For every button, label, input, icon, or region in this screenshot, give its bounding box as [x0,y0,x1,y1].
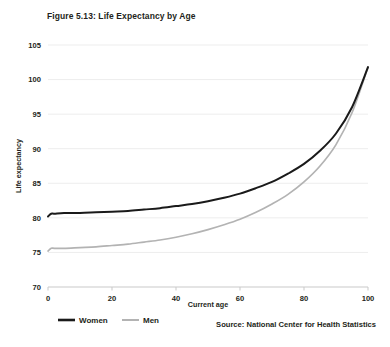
y-axis-tick-labels: 707580859095100105 [28,41,41,292]
legend-label-women: Women [79,316,108,325]
y-axis-tick-label: 90 [33,145,41,154]
figure-container: Figure 5.13: Life Expectancy by Age 7075… [0,0,390,347]
y-axis-tick-label: 85 [33,179,42,188]
y-axis-tick-label: 75 [33,248,42,257]
life-expectancy-line-chart: 707580859095100105 020406080100 Life exp… [0,0,390,347]
y-axis-title: Life expectancy [14,139,23,193]
y-axis-tick-label: 95 [33,110,42,119]
legend-label-men: Men [143,316,159,325]
y-axis-tick-label: 100 [28,75,41,84]
x-axis-tick-label: 40 [172,294,180,303]
x-axis-tick-label: 20 [108,294,116,303]
chart-legend: WomenMen [58,316,159,325]
series-line-women [48,67,368,216]
series-line-men [48,67,368,251]
x-axis-title: Current age [188,300,228,309]
x-axis-tick-label: 100 [362,294,375,303]
source-note: Source: National Center for Health Stati… [216,320,376,329]
y-axis-tick-label: 105 [28,41,41,50]
x-axis-tick-label: 80 [300,294,308,303]
x-axis-ticks [48,287,368,291]
x-axis-tick-label: 60 [236,294,244,303]
y-axis-tick-label: 80 [33,214,41,223]
y-axis-tick-label: 70 [33,283,41,292]
data-series [48,67,368,251]
x-axis-tick-label: 0 [46,294,50,303]
